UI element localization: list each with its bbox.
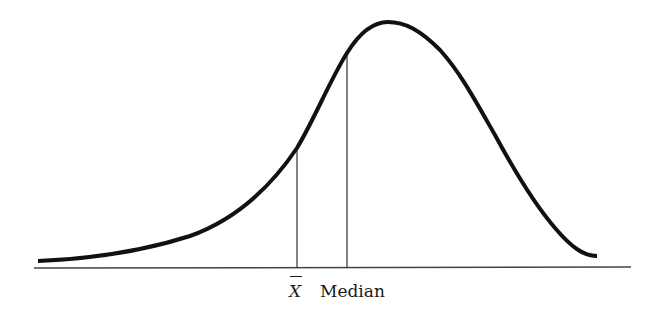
baseline-axis — [34, 267, 631, 268]
mean-overbar — [290, 276, 302, 277]
median-label: Median — [320, 283, 385, 300]
distribution-curve — [38, 22, 597, 261]
mean-label: X — [289, 283, 301, 300]
skewed-distribution-diagram — [0, 0, 661, 310]
